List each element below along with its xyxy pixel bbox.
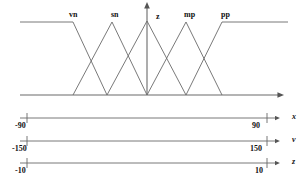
membership-curves	[20, 21, 288, 95]
mf-curve-vn	[20, 22, 107, 95]
mf-curve-mp	[147, 22, 222, 95]
axis-x-min-label: -90	[15, 122, 26, 130]
axis-x-max-label: 90	[252, 122, 260, 130]
axis-label-v: v	[292, 136, 296, 144]
scale-axes	[20, 113, 275, 168]
mf-curve-sn	[73, 22, 147, 95]
mf-label-vn: vn	[69, 11, 77, 19]
mf-label-z: z	[156, 13, 160, 21]
axis-z-max-label: 10	[255, 167, 263, 175]
figure-canvas	[0, 0, 307, 183]
axis-label-x: x	[292, 113, 296, 121]
axis-label-z: z	[292, 158, 295, 166]
mf-label-pp: pp	[221, 11, 230, 19]
mf-label-sn: sn	[111, 11, 119, 19]
mf-curve-pp	[186, 22, 288, 95]
axis-v-min-label: -150	[12, 145, 27, 153]
axis-z-min-label: -10	[15, 167, 26, 175]
mf-label-mp: mp	[184, 11, 195, 19]
fuzzy-membership-figure: vn sn z mp pp x v z -90 90 -150 150 -10 …	[0, 0, 307, 183]
axis-v-max-label: 150	[250, 145, 262, 153]
